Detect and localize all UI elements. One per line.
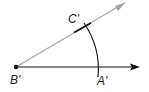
- gray-ray-arrowhead-icon: [115, 2, 126, 11]
- label-a-prime: A': [97, 75, 107, 87]
- label-c-prime: C': [68, 13, 79, 25]
- angle-construction-diagram: B' A' C': [0, 0, 149, 92]
- construction-arc: [84, 23, 98, 77]
- label-b-prime: B': [10, 74, 20, 86]
- vertex-point: [14, 65, 18, 69]
